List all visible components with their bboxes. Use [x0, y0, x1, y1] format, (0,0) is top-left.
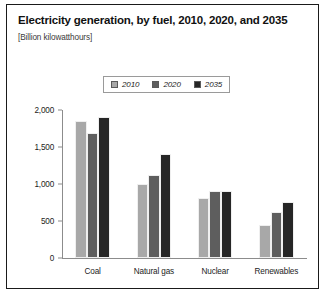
x-axis-line — [62, 258, 307, 259]
bar-renewables-2020 — [271, 212, 283, 258]
chart-legend: 201020202035 — [103, 76, 230, 93]
legend-swatch-2035 — [194, 81, 201, 88]
legend-item-2035: 2035 — [194, 80, 222, 89]
bar-coal-2020 — [87, 133, 99, 258]
bar-coal-2035 — [98, 117, 110, 258]
legend-label-2035: 2035 — [205, 80, 222, 89]
x-axis-category-label-nuclear: Nuclear — [202, 267, 229, 276]
plot-area: 05001,0001,5002,000CoalNatural gasNuclea… — [62, 110, 307, 258]
legend-item-2010: 2010 — [111, 80, 139, 89]
x-axis-category-label-renewables: Renewables — [255, 267, 299, 276]
y-axis-tick-mark — [58, 221, 62, 222]
bar-natural-gas-2020 — [148, 175, 160, 258]
bar-natural-gas-2010 — [137, 184, 149, 258]
legend-label-2020: 2020 — [163, 80, 180, 89]
y-axis-tick-mark — [58, 110, 62, 111]
chart-title: Electricity generation, by fuel, 2010, 2… — [18, 14, 308, 27]
y-axis-tick-label: 2,000 — [35, 106, 55, 115]
y-axis-tick-label: 0 — [50, 254, 54, 263]
chart-units-label: [Billion kilowatthours] — [18, 33, 92, 42]
bar-nuclear-2010 — [198, 198, 210, 258]
bar-nuclear-2035 — [221, 191, 233, 258]
y-axis-tick-mark — [58, 184, 62, 185]
legend-swatch-2020 — [152, 81, 159, 88]
y-axis-tick-label: 1,000 — [35, 180, 55, 189]
legend-swatch-2010 — [111, 81, 118, 88]
y-axis-tick-2000: 2,000 — [35, 106, 63, 115]
bar-nuclear-2020 — [209, 191, 221, 258]
x-axis-category-label-coal: Coal — [85, 267, 101, 276]
x-axis-category-label-natural-gas: Natural gas — [134, 267, 174, 276]
y-axis-tick-1500: 1,500 — [35, 143, 63, 152]
y-axis-tick-label: 500 — [41, 217, 54, 226]
chart-figure: Electricity generation, by fuel, 2010, 2… — [0, 0, 325, 291]
bar-renewables-2035 — [282, 202, 294, 258]
bar-natural-gas-2035 — [160, 154, 172, 258]
y-axis-tick-label: 1,500 — [35, 143, 55, 152]
legend-item-2020: 2020 — [152, 80, 180, 89]
y-axis-tick-500: 500 — [41, 217, 62, 226]
bar-coal-2010 — [75, 121, 87, 258]
y-axis-tick-mark — [58, 147, 62, 148]
y-axis-tick-0: 0 — [50, 254, 62, 263]
bar-renewables-2010 — [259, 225, 271, 258]
y-axis-tick-mark — [58, 258, 62, 259]
y-axis-tick-1000: 1,000 — [35, 180, 63, 189]
legend-label-2010: 2010 — [122, 80, 139, 89]
